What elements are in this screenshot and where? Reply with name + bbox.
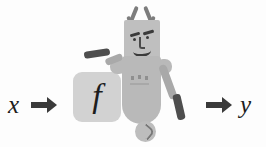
chest-mark [131,76,134,80]
arrow-head [222,97,232,113]
eyebrow-right [143,30,154,36]
eye-right [146,36,149,39]
eye-left [133,38,136,41]
chest-line [130,83,149,85]
cartoon-figure [84,2,208,147]
arrow-shaft [31,102,48,108]
chest-mark [138,75,141,79]
arrow-shaft [206,102,223,108]
bat-icon [84,48,111,59]
figure-head [124,20,160,59]
hand-right [172,93,186,120]
chest-mark [145,76,148,80]
output-arrow-icon [206,97,233,113]
input-arrow-icon [31,97,58,113]
output-variable-label: y [240,92,251,117]
function-diagram-scene: x f [0,0,266,147]
figure-torso [122,56,161,124]
input-variable-label: x [8,92,19,117]
arrow-head [47,97,57,113]
